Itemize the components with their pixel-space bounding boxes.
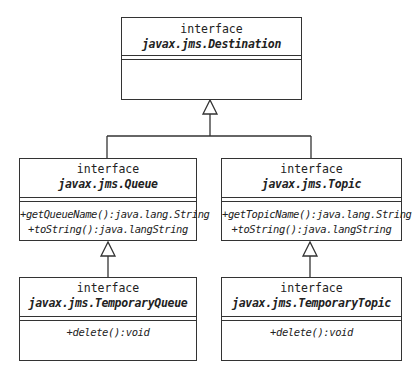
compartment-divider (20, 316, 196, 321)
class-name: javax.jms.Destination (122, 37, 301, 52)
compartment-divider (122, 55, 301, 60)
class-header: interface javax.jms.Destination (122, 18, 301, 52)
operation: +toString():java.langString (222, 222, 401, 237)
stereotype-label: interface (20, 162, 196, 177)
operations-list: +getTopicName():java.lang.String +toStri… (222, 207, 401, 237)
class-temporary-topic: interface javax.jms.TemporaryTopic +dele… (221, 277, 402, 361)
operation: +delete():void (222, 325, 401, 340)
class-header: interface javax.jms.TemporaryQueue (20, 278, 196, 311)
compartment-divider (222, 197, 401, 202)
operations-list: +delete():void (20, 325, 196, 340)
stereotype-label: interface (222, 281, 401, 296)
generalization-arrow-queue (101, 242, 115, 277)
operations-list: +getQueueName():java.lang.String +toStri… (20, 207, 196, 237)
generalization-arrow-topic (303, 242, 317, 277)
class-name: javax.jms.Topic (222, 177, 401, 192)
operation: +toString():java.langString (20, 222, 196, 237)
stereotype-label: interface (122, 22, 301, 37)
stereotype-label: interface (222, 162, 401, 177)
class-header: interface javax.jms.TemporaryTopic (222, 278, 401, 311)
stereotype-label: interface (20, 281, 196, 296)
class-temporary-queue: interface javax.jms.TemporaryQueue +dele… (19, 277, 197, 361)
compartment-divider (20, 197, 196, 202)
class-name: javax.jms.TemporaryTopic (222, 296, 401, 311)
operation: +getTopicName():java.lang.String (222, 207, 401, 222)
operations-list: +delete():void (222, 325, 401, 340)
class-topic: interface javax.jms.Topic +getTopicName(… (221, 158, 402, 241)
class-name: javax.jms.TemporaryQueue (20, 296, 196, 311)
class-queue: interface javax.jms.Queue +getQueueName(… (19, 158, 197, 241)
class-destination: interface javax.jms.Destination (121, 17, 302, 100)
operation: +delete():void (20, 325, 196, 340)
operation: +getQueueName():java.lang.String (20, 207, 196, 222)
class-name: javax.jms.Queue (20, 177, 196, 192)
compartment-divider (222, 316, 401, 321)
generalization-arrow-destination (107, 100, 311, 158)
class-header: interface javax.jms.Queue (20, 159, 196, 192)
class-header: interface javax.jms.Topic (222, 159, 401, 192)
